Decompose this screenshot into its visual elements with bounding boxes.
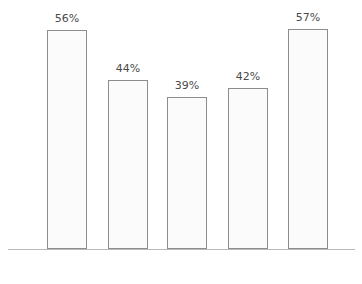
bar-value-label: 39% (175, 79, 200, 92)
bar-value-label: 57% (296, 11, 321, 24)
x-axis-line (8, 249, 355, 250)
bar-rect[interactable] (167, 97, 207, 249)
bar-chart: 56% 9 Jan 44% 10 Jan 39% 11 Jan 42% 12 J… (0, 0, 362, 284)
bar-rect[interactable] (288, 29, 328, 249)
plot-area: 56% 9 Jan 44% 10 Jan 39% 11 Jan 42% 12 J… (0, 0, 362, 284)
bar-value-label: 42% (236, 70, 261, 83)
bar-rect[interactable] (228, 88, 268, 249)
bar-rect[interactable] (47, 30, 87, 249)
bar-value-label: 44% (116, 62, 141, 75)
bar-rect[interactable] (108, 80, 148, 249)
bar-value-label: 56% (55, 12, 80, 25)
